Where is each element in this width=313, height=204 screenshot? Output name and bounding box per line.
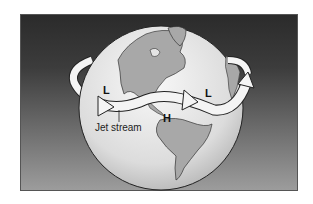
high-pressure-label: H	[163, 112, 171, 124]
globe-diagram	[0, 0, 313, 204]
low-pressure-label-west: L	[103, 84, 110, 96]
low-pressure-label-east: L	[205, 87, 212, 99]
jet-stream-label: Jet stream	[95, 122, 142, 133]
